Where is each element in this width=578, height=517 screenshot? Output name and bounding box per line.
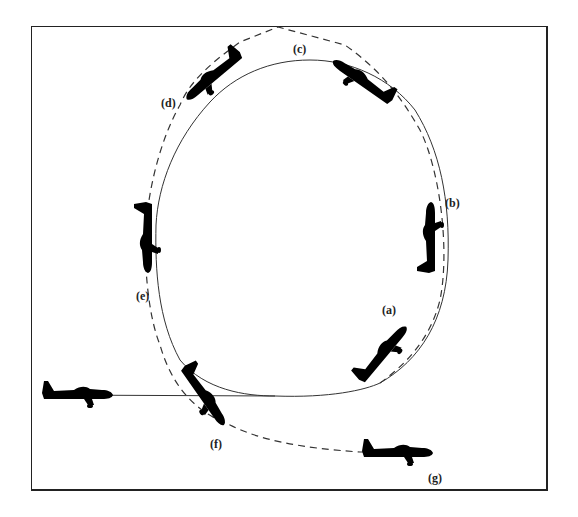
aircraft-start-icon [42,381,113,408]
aircraft-d-icon [178,43,250,109]
label-d: (d) [161,96,176,111]
label-g: (g) [428,471,442,486]
label-c: (c) [293,42,306,57]
flight-paths [0,0,578,517]
aircraft-c-icon [326,50,400,113]
aircraft-g-icon [362,439,433,466]
loop-diagram: (a) (b) (c) (d) (e) (f) (g) [0,0,578,517]
label-e: (e) [136,289,149,304]
label-a: (a) [382,303,396,318]
label-b: (b) [445,196,460,211]
aircraft-a-icon [350,318,416,390]
label-f: (f) [210,437,222,452]
aircraft-b-icon [417,202,444,273]
